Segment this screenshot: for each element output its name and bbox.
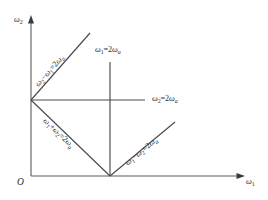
w1-equals: =2 — [104, 45, 113, 54]
w2-sub: 2 — [158, 98, 161, 104]
y-axis-arrowhead-icon — [28, 15, 34, 24]
w1-sym-rhs: ω — [112, 45, 118, 54]
w1-sub: 1 — [101, 49, 104, 55]
x-axis-arrowhead-icon — [237, 173, 246, 179]
label-omega1-equals: ω1=2ωa — [95, 46, 121, 54]
line-omega2-minus-omega1 — [31, 33, 90, 100]
x-axis-label-subscript: 1 — [252, 181, 255, 187]
w2-equals: =2 — [161, 94, 170, 103]
w2-sub-rhs: a — [175, 98, 178, 104]
y-axis-label: ω2 — [14, 16, 23, 24]
w2-sym-rhs: ω — [169, 94, 175, 103]
x-axis-label-symbol: ω — [246, 177, 252, 186]
w2-sym: ω — [152, 94, 158, 103]
w1-sym: ω — [95, 45, 101, 54]
label-omega2-equals: ω2=2ωa — [152, 95, 178, 103]
origin-label: O — [17, 178, 24, 188]
y-axis-label-subscript: 2 — [20, 19, 23, 25]
y-axis-label-symbol: ω — [14, 15, 20, 24]
diagram-canvas — [0, 0, 268, 200]
w1-sub-rhs: a — [118, 49, 121, 55]
x-axis-label: ω1 — [246, 178, 255, 186]
frequency-plane-figure: ω2 ω1 O ω2−ω1=2ωa ω1+ω2=2ωa ω1−ω2=2ωa ω1… — [0, 0, 268, 200]
